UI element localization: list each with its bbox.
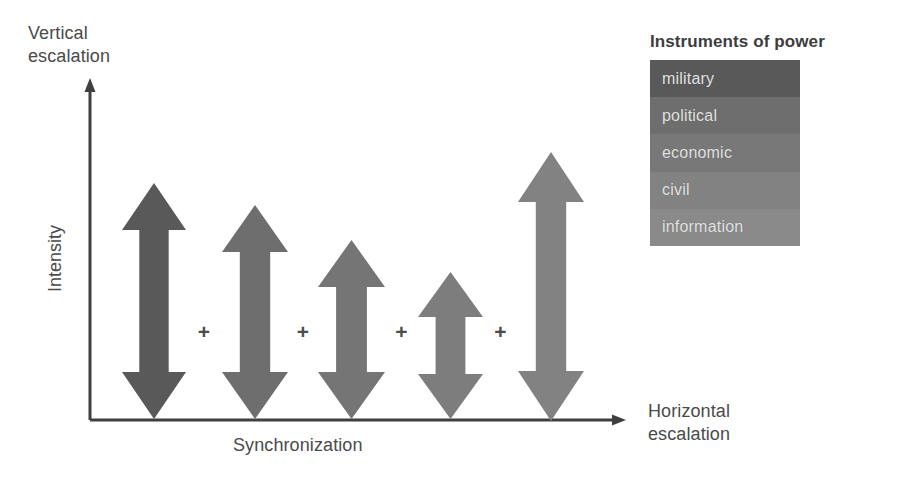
legend-item-label: information (662, 218, 743, 236)
horizontal-escalation-label: Horizontal escalation (648, 400, 730, 447)
arrow-civil[interactable] (418, 272, 483, 419)
plus-operator-3: + (395, 321, 407, 342)
plus-operator-2: + (297, 321, 309, 342)
legend-item-label: civil (662, 181, 690, 199)
legend-title: Instruments of power (650, 32, 802, 52)
arrow-information[interactable] (518, 152, 584, 421)
legend-item-civil[interactable]: civil (650, 172, 800, 209)
plus-operator-1: + (198, 321, 210, 342)
legend-item-political[interactable]: political (650, 97, 800, 134)
legend-swatch-box: militarypoliticaleconomiccivilinformatio… (650, 60, 800, 246)
escalation-diagram: ++++ Vertical escalation Horizontal esca… (0, 0, 903, 486)
legend-item-information[interactable]: information (650, 209, 800, 246)
arrow-political[interactable] (222, 205, 288, 419)
arrow-military[interactable] (122, 183, 186, 419)
synchronization-axis-title: Synchronization (233, 434, 363, 457)
arrow-economic[interactable] (318, 240, 385, 419)
legend-item-economic[interactable]: economic (650, 134, 800, 171)
legend-item-label: military (662, 70, 714, 88)
legend-item-military[interactable]: military (650, 60, 800, 97)
plus-operator-4: + (494, 321, 506, 342)
intensity-axis-title: Intensity (45, 199, 66, 319)
legend: Instruments of power militarypoliticalec… (650, 32, 802, 246)
legend-item-label: political (662, 107, 717, 125)
legend-item-label: economic (662, 144, 732, 162)
vertical-escalation-label: Vertical escalation (28, 22, 110, 69)
